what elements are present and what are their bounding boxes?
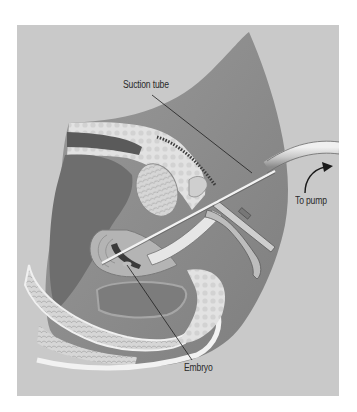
- anatomy-illustration: [17, 25, 339, 396]
- rectum: [97, 282, 186, 317]
- arrowhead-icon: [322, 162, 333, 172]
- diagram-panel: Suction tube To pump Embryo: [17, 25, 339, 396]
- embryo-sac: [123, 262, 132, 267]
- to-pump-arrow: [305, 167, 325, 193]
- label-to-pump: To pump: [295, 195, 327, 206]
- label-suction-tube: Suction tube: [123, 79, 169, 90]
- label-embryo: Embryo: [184, 362, 213, 373]
